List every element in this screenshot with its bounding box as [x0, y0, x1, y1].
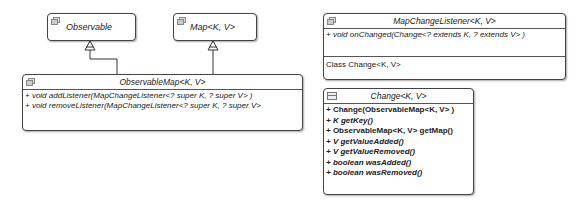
interface-icon [51, 17, 60, 25]
class-header: Change<K, V> [324, 89, 473, 104]
method-get-value-added: + V getValueAdded() [324, 137, 473, 148]
method-remove-listener: + void removeListener(MapChangeListener<… [23, 101, 302, 111]
generalization-observablemap-observable [85, 41, 117, 74]
class-observable[interactable]: Observable [47, 13, 136, 41]
interface-icon [327, 17, 336, 25]
method-constructor: + Change(ObservableMap<K, V> ) [324, 105, 473, 116]
inner-classes-section: Class Change<K, V> [324, 57, 565, 70]
class-name: ObservableMap<K, V> [120, 77, 206, 87]
class-name: MapChangeListener<K, V> [393, 16, 496, 26]
class-icon [327, 92, 337, 100]
method-get-map: + ObservableMap<K, V> getMap() [324, 126, 473, 137]
class-name: Observable [66, 22, 112, 32]
method-get-key: + K getKey() [324, 116, 473, 127]
class-name: Map<K, V> [190, 22, 235, 32]
method-get-value-removed: + V getValueRemoved() [324, 147, 473, 158]
methods-section: + void addListener(MapChangeListener<? s… [23, 90, 302, 111]
method-on-changed: + void onChanged(Change<? extends K, ? e… [324, 30, 565, 40]
methods-section: + Change(ObservableMap<K, V> ) + K getKe… [324, 104, 473, 179]
class-name: Change<K, V> [371, 91, 427, 101]
class-change[interactable]: Change<K, V> + Change(ObservableMap<K, V… [323, 88, 474, 195]
class-observable-map[interactable]: ObservableMap<K, V> + void addListener(M… [22, 74, 303, 131]
class-header: MapChangeListener<K, V> [324, 14, 565, 29]
methods-section: + void onChanged(Change<? extends K, ? e… [324, 29, 565, 57]
method-add-listener: + void addListener(MapChangeListener<? s… [23, 91, 302, 101]
class-map-change-listener[interactable]: MapChangeListener<K, V> + void onChanged… [323, 13, 566, 80]
interface-icon [177, 17, 186, 25]
method-was-added: + boolean wasAdded() [324, 158, 473, 169]
inner-class-change[interactable]: Class Change<K, V> [324, 60, 565, 70]
class-map[interactable]: Map<K, V> [173, 13, 257, 41]
generalization-observablemap-map [208, 41, 218, 74]
interface-icon [26, 78, 35, 86]
class-header: ObservableMap<K, V> [23, 75, 302, 90]
method-was-removed: + boolean wasRemoved() [324, 168, 473, 179]
